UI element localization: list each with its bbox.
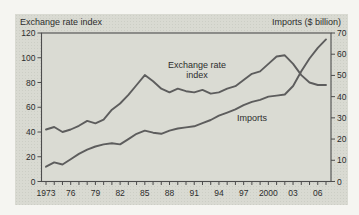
page-root: { "header": { "left": "Exchange rate ind… [0, 0, 359, 215]
left-axis-tick-label: 60 [26, 102, 36, 112]
x-axis-tick-label: 2000 [259, 188, 278, 198]
right-axis-tick-label: 10 [337, 155, 347, 165]
x-axis-tick-label: 79 [91, 188, 101, 198]
right-axis-tick-label: 70 [337, 28, 347, 38]
x-axis-tick-label: 76 [66, 188, 76, 198]
left-axis-tick-label: 100 [21, 53, 35, 63]
x-axis-tick-label: 97 [239, 188, 249, 198]
x-axis-tick-label: 03 [288, 188, 298, 198]
exchange-rate-series-label-line1: Exchange rate [168, 60, 226, 70]
left-axis-tick-label: 120 [21, 28, 35, 38]
left-axis-tick-label: 20 [26, 152, 36, 162]
plot-frame [42, 33, 332, 182]
x-axis-tick-label: 82 [115, 188, 125, 198]
left-axis-tick-label: 0 [31, 177, 36, 187]
left-axis-title: Exchange rate index [20, 17, 102, 27]
x-axis-tick-label: 91 [190, 188, 200, 198]
x-axis-tick-label: 94 [214, 188, 224, 198]
exchange-rate-series-label-line2: index [186, 70, 208, 80]
right-axis-tick-label: 0 [337, 177, 342, 187]
x-axis-tick-label: 06 [313, 188, 323, 198]
imports-series-label: Imports [237, 113, 267, 123]
x-axis-tick-label: 88 [165, 188, 175, 198]
x-axis-tick-label: 1973 [37, 188, 56, 198]
right-axis-tick-label: 30 [337, 113, 347, 123]
right-axis-tick-label: 50 [337, 70, 347, 80]
right-axis-tick-label: 60 [337, 49, 347, 59]
chart-panel: 0204060801001200102030405060701973767982… [15, 14, 348, 205]
right-axis-title: Imports ($ billion) [272, 17, 341, 27]
chart-svg: 0204060801001200102030405060701973767982… [15, 14, 348, 205]
exchange-rate-series-label: Exchange rate index [168, 60, 226, 80]
x-axis-tick-label: 85 [140, 188, 150, 198]
left-axis-tick-label: 40 [26, 127, 36, 137]
left-axis-tick-label: 80 [26, 78, 36, 88]
right-axis-tick-label: 40 [337, 92, 347, 102]
right-axis-tick-label: 20 [337, 134, 347, 144]
